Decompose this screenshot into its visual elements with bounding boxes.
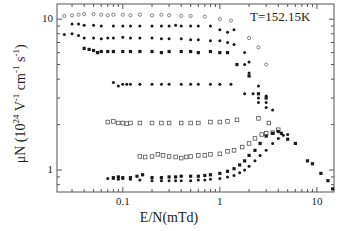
data-point [189,121,193,125]
data-point [167,175,170,178]
data-point [265,101,268,104]
data-point [248,60,251,63]
data-point [294,142,297,145]
data-point [100,50,103,53]
plot-frame [57,4,334,192]
data-point [151,36,154,39]
data-point [161,154,165,158]
data-point [209,83,212,86]
data-point [180,179,183,182]
y-tick-label: 10 [27,12,53,24]
data-point [174,24,177,27]
data-point [167,121,171,125]
data-point [121,13,124,16]
data-point [77,13,80,16]
data-point [129,83,132,86]
data-point [117,121,121,125]
data-point [248,71,251,74]
data-point [218,177,221,180]
data-point [168,179,171,182]
data-point [106,120,110,124]
data-point [121,177,124,180]
data-point [180,25,183,28]
data-point [257,46,260,49]
y-label-part: s [13,57,28,66]
data-point [138,83,141,86]
data-point [180,50,183,53]
data-point [77,22,80,25]
data-point [106,36,109,39]
data-point [331,187,334,190]
data-point [125,122,129,126]
data-point [167,50,170,53]
y-label-part: V [13,101,28,114]
y-tick-label: 1 [27,163,53,175]
data-point [257,101,260,104]
data-point [112,177,115,180]
data-point [143,155,147,159]
data-point [121,36,124,39]
data-point [129,25,132,28]
data-point [138,121,142,125]
data-point [243,51,246,54]
data-point [106,177,109,180]
y-label-exp: 24 [11,114,21,123]
data-point [203,178,206,181]
data-point [160,25,163,28]
data-point [125,83,128,86]
data-point [265,149,268,152]
data-point [151,179,154,182]
data-point [238,171,241,174]
data-point [319,172,322,175]
data-point [189,155,193,159]
data-point [209,50,212,53]
data-point [197,178,200,181]
data-point [156,153,160,157]
data-point [160,176,163,179]
data-point [282,134,285,137]
data-point [226,51,229,54]
data-point [63,33,66,36]
data-point [180,175,183,178]
data-point [311,162,314,165]
data-point [277,130,280,133]
data-point [197,154,201,158]
data-point [112,50,115,53]
data-point [197,121,201,125]
data-point [271,142,274,145]
data-point [252,92,255,95]
data-point [257,92,260,95]
data-point [100,25,103,28]
data-point [247,142,251,146]
data-point [138,25,141,28]
data-point [197,38,200,41]
data-point [106,50,109,53]
data-point [326,179,329,182]
data-point [121,83,124,86]
data-point [71,22,74,25]
data-point [233,28,236,31]
data-point [138,36,141,39]
data-point [197,83,200,86]
x-tick-label: 10 [305,195,329,207]
data-point [209,25,212,28]
data-point [92,49,95,52]
data-point [218,39,221,42]
chart-canvas [0,0,338,231]
data-point [151,25,154,28]
data-point [160,121,164,125]
data-point [189,179,192,182]
data-point [151,83,154,86]
data-point [243,159,246,162]
data-point [138,178,141,181]
data-point [112,36,115,39]
data-point [112,13,115,16]
data-point [265,106,268,109]
data-point [218,83,221,86]
x-tick-label: 1 [208,195,232,207]
data-point [138,155,142,159]
data-point [121,50,124,53]
data-point [83,47,86,50]
data-point [203,154,207,158]
data-point [77,34,80,37]
